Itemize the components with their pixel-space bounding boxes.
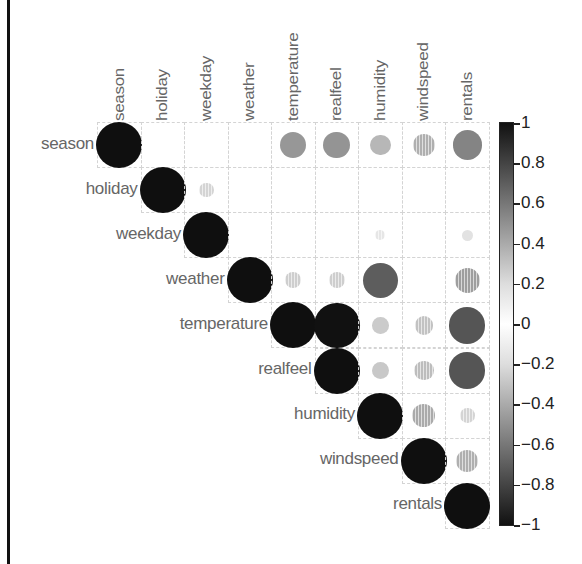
correlation-circle — [415, 316, 433, 334]
colorbar-tick — [514, 203, 520, 205]
row-label: windspeed — [320, 449, 399, 469]
correlation-circle — [413, 134, 435, 156]
correlation-circle — [453, 130, 482, 159]
row-label: rentals — [393, 494, 442, 514]
colorbar-tick-label: −1 — [521, 516, 540, 533]
row-label: temperature — [180, 314, 268, 334]
colorbar-tick — [514, 163, 520, 165]
column-label: humidity — [372, 60, 389, 121]
matrix-cell — [402, 212, 447, 258]
colorbar-tick — [514, 445, 520, 447]
matrix-cell — [358, 167, 403, 213]
correlation-circle — [449, 352, 486, 389]
correlation-circle — [370, 135, 391, 156]
column-label: temperature — [285, 33, 302, 121]
matrix-cell — [228, 122, 273, 168]
row-label: season — [41, 134, 94, 154]
colorbar-tick — [514, 485, 520, 487]
correlation-circle — [96, 122, 142, 168]
correlation-circle — [444, 483, 490, 529]
colorbar-tick-label: 0.6 — [521, 194, 545, 211]
correlation-circle — [140, 167, 186, 213]
colorbar-tick — [514, 364, 520, 366]
correlation-plot: seasonholidayweekdayweathertemperaturere… — [0, 0, 582, 564]
correlation-circle — [449, 307, 486, 344]
colorbar-tick-label: 0.2 — [521, 275, 545, 292]
correlation-circle — [357, 393, 403, 439]
column-label: season — [111, 68, 128, 121]
matrix-cell — [271, 167, 316, 213]
colorbar-tick-label: 1 — [521, 114, 530, 131]
row-label: weather — [166, 269, 224, 289]
row-label: humidity — [294, 404, 355, 424]
matrix-cell — [402, 257, 447, 303]
matrix-cell — [141, 122, 186, 168]
matrix-cell — [228, 167, 273, 213]
row-label: realfeel — [258, 359, 311, 379]
correlation-circle — [227, 257, 273, 303]
matrix-cell — [228, 212, 273, 258]
colorbar-tick — [514, 404, 520, 406]
matrix-cell — [271, 212, 316, 258]
column-label: windspeed — [415, 42, 432, 121]
colorbar-tick-label: 0.8 — [521, 154, 545, 171]
column-label: weather — [241, 63, 258, 121]
correlation-circle — [455, 268, 480, 293]
colorbar — [499, 122, 514, 526]
colorbar-tick — [514, 284, 520, 286]
matrix-cell — [184, 122, 229, 168]
column-label: rentals — [459, 72, 476, 121]
correlation-circle — [372, 317, 389, 334]
correlation-circle — [199, 183, 214, 198]
matrix-cell — [445, 167, 490, 213]
colorbar-tick-label: 0 — [521, 315, 530, 332]
correlation-circle — [314, 348, 360, 394]
correlation-circle — [401, 438, 447, 484]
colorbar-tick-label: 0.4 — [521, 235, 545, 252]
column-label: holiday — [154, 69, 171, 121]
correlation-circle — [372, 362, 389, 379]
colorbar-tick — [514, 244, 520, 246]
column-label: weekday — [198, 56, 215, 121]
row-label: weekday — [116, 224, 181, 244]
column-label: realfeel — [328, 68, 345, 121]
colorbar-tick-label: −0.4 — [521, 395, 555, 412]
colorbar-tick-label: −0.6 — [521, 436, 555, 453]
matrix-cell — [315, 212, 360, 258]
correlation-circle — [456, 450, 478, 472]
correlation-circle — [460, 408, 475, 423]
correlation-circle — [462, 230, 473, 241]
correlation-circle — [363, 263, 398, 298]
colorbar-tick — [514, 324, 520, 326]
colorbar-tick-label: −0.8 — [521, 476, 555, 493]
colorbar-tick — [514, 123, 520, 125]
matrix-cell — [402, 167, 447, 213]
matrix-cell — [315, 167, 360, 213]
correlation-circle — [314, 303, 360, 349]
correlation-circle — [414, 361, 434, 381]
colorbar-tick-label: −0.2 — [521, 355, 555, 372]
correlation-circle — [329, 272, 345, 288]
colorbar-tick — [514, 525, 520, 527]
row-label: holiday — [86, 179, 138, 199]
